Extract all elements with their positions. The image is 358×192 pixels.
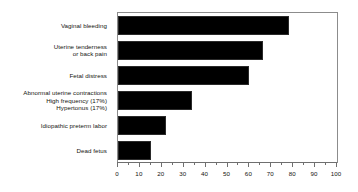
bar-chart-figure: Vaginal bleedingUterine tendernessor bac… [0, 0, 358, 192]
x-axis-minor-tick [216, 163, 217, 165]
x-axis-tick-label: 60 [238, 170, 258, 177]
x-axis-minor-tick [281, 163, 282, 165]
x-axis-tick-label: 80 [282, 170, 302, 177]
x-axis-minor-tick [128, 163, 129, 165]
bar [118, 116, 166, 135]
x-axis-major-tick [227, 163, 228, 167]
category-label: Fetal distress [0, 72, 107, 80]
x-axis-major-tick [248, 163, 249, 167]
x-axis-major-tick [205, 163, 206, 167]
category-label: Vaginal bleeding [0, 22, 107, 30]
category-label: Abnormal uterine contractionsHigh freque… [0, 89, 107, 112]
category-label-line: High frequency (17%) [0, 97, 107, 105]
x-axis-minor-tick [172, 163, 173, 165]
bar-row [118, 113, 337, 138]
x-axis-major-tick [183, 163, 184, 167]
x-axis-minor-tick [259, 163, 260, 165]
category-label: Uterine tendernessor back pain [0, 43, 107, 58]
category-label-line: Dead fetus [0, 147, 107, 155]
x-axis-minor-tick [325, 163, 326, 165]
x-axis-major-tick [270, 163, 271, 167]
x-axis-tick-label: 0 [107, 170, 127, 177]
x-axis-minor-tick [303, 163, 304, 165]
x-axis-tick-label: 30 [173, 170, 193, 177]
bar-row [118, 138, 337, 163]
x-axis-major-tick [117, 163, 118, 167]
x-axis-major-tick [314, 163, 315, 167]
bar-row [118, 13, 337, 38]
category-label-line: Idiopathic preterm labor [0, 122, 107, 130]
category-label-line: or back pain [0, 50, 107, 58]
x-axis-major-tick [336, 163, 337, 167]
category-label-line: Fetal distress [0, 72, 107, 80]
x-axis-tick-label: 90 [304, 170, 324, 177]
bar [118, 91, 192, 110]
category-label: Dead fetus [0, 147, 107, 155]
bar [118, 141, 151, 160]
plot-area [117, 12, 338, 163]
category-label-line: Hypertonus (17%) [0, 104, 107, 112]
x-axis-major-tick [161, 163, 162, 167]
x-axis-major-tick [292, 163, 293, 167]
bar [118, 41, 263, 60]
x-axis-tick-label: 40 [195, 170, 215, 177]
category-label-line: Vaginal bleeding [0, 22, 107, 30]
x-axis-tick-label: 20 [151, 170, 171, 177]
x-axis-minor-tick [194, 163, 195, 165]
x-axis-minor-tick [237, 163, 238, 165]
bar-row [118, 38, 337, 63]
bar-row [118, 88, 337, 113]
x-axis-tick-label: 100 [326, 170, 346, 177]
bar [118, 16, 289, 35]
x-axis-tick-label: 50 [217, 170, 237, 177]
category-label-line: Abnormal uterine contractions [0, 89, 107, 97]
category-label-column: Vaginal bleedingUterine tendernessor bac… [0, 14, 112, 162]
x-axis-minor-tick [150, 163, 151, 165]
bar-row [118, 63, 337, 88]
category-label-line: Uterine tenderness [0, 43, 107, 51]
x-axis-major-tick [139, 163, 140, 167]
x-axis-tick-label: 10 [129, 170, 149, 177]
category-label: Idiopathic preterm labor [0, 122, 107, 130]
x-axis-tick-label: 70 [260, 170, 280, 177]
bar [118, 66, 249, 85]
bar-series [118, 13, 337, 163]
